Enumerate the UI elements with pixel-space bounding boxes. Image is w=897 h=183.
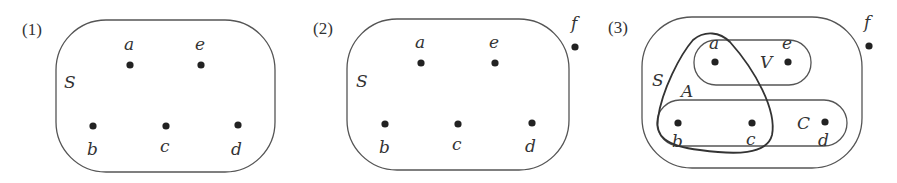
point-d-label: d <box>818 130 829 150</box>
point-a <box>417 59 424 66</box>
point-a <box>711 58 718 65</box>
point-e <box>784 58 791 65</box>
set-diagrams: (1) S a e b c d (2) S a e b c d f (3) <box>0 0 897 183</box>
panel-2: (2) S a e b c d f <box>313 13 580 170</box>
point-d <box>528 119 535 126</box>
point-e <box>491 59 498 66</box>
point-f <box>865 42 872 49</box>
set-v-label: V <box>760 52 774 72</box>
point-d <box>234 121 241 128</box>
point-b-label: b <box>672 131 683 151</box>
point-b <box>89 122 96 129</box>
set-s-label: S <box>64 72 76 92</box>
point-d <box>821 118 828 125</box>
point-b <box>674 119 681 126</box>
panel-number: (2) <box>313 19 333 38</box>
panel-number: (1) <box>22 20 42 39</box>
point-b <box>381 120 388 127</box>
point-a-label: a <box>124 34 134 54</box>
point-c <box>162 122 169 129</box>
point-c <box>454 120 461 127</box>
set-s-label: S <box>652 70 664 90</box>
point-e <box>197 61 204 68</box>
point-b-label: b <box>87 139 98 159</box>
point-a-label: a <box>709 33 719 53</box>
point-c-label: c <box>746 129 756 149</box>
point-e-label: e <box>195 34 205 54</box>
set-a-label: A <box>679 81 693 101</box>
point-c <box>748 119 755 126</box>
point-c-label: c <box>452 134 462 154</box>
point-c-label: c <box>160 136 170 156</box>
point-b-label: b <box>379 137 390 157</box>
set-c-label: C <box>797 113 810 133</box>
point-a-label: a <box>415 32 425 52</box>
set-s-label: S <box>356 71 368 91</box>
panel-1: (1) S a e b c d <box>22 20 275 172</box>
panel-number: (3) <box>608 18 628 37</box>
point-e-label: e <box>782 33 792 53</box>
point-f-label: f <box>569 13 580 33</box>
point-f-label: f <box>862 12 873 32</box>
point-f <box>571 43 578 50</box>
point-e-label: e <box>489 32 499 52</box>
point-d-label: d <box>525 136 536 156</box>
point-a <box>126 61 133 68</box>
point-d-label: d <box>231 139 242 159</box>
panel-3: (3) S V C A a e b c d f <box>608 12 873 168</box>
